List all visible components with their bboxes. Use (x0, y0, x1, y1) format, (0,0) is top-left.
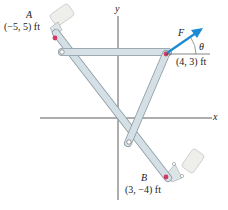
pin-b (164, 175, 169, 180)
x-axis-label: x (213, 112, 217, 122)
pin-top-left (60, 50, 64, 54)
support-b (166, 148, 205, 182)
point-c-coords: (4, 3) ft (176, 57, 206, 67)
pin-lower (127, 140, 131, 144)
point-b-label: B (141, 173, 147, 183)
pin-a (53, 36, 58, 41)
point-b-coords: (3, −4) ft (125, 185, 161, 195)
force-label: F (178, 28, 184, 38)
theta-label: θ (199, 42, 204, 52)
y-axis-label: y (115, 4, 119, 14)
point-a-label: A (26, 10, 32, 20)
point-a-coords: (−5, 5) ft (4, 22, 40, 32)
theta-arc (191, 38, 196, 54)
